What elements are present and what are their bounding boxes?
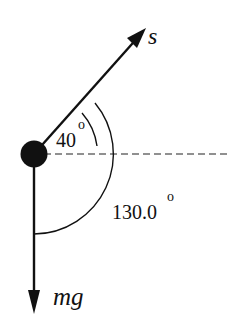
angle-130-value: 130.0	[112, 201, 157, 223]
vector-s	[34, 28, 146, 154]
vector-mg	[28, 160, 40, 314]
vector-s-label: s	[148, 23, 157, 49]
angle-40-degree-symbol: o	[78, 117, 85, 132]
vector-mg-label: mg	[53, 283, 84, 310]
arrowhead-mg-icon	[28, 290, 40, 314]
angle-arc-130	[34, 103, 113, 234]
angle-40-value: 40	[56, 129, 76, 151]
force-diagram: s mg 40 o 130.0 o	[0, 0, 244, 332]
mass-ball	[21, 141, 48, 168]
angle-130-degree-symbol: o	[167, 189, 174, 204]
